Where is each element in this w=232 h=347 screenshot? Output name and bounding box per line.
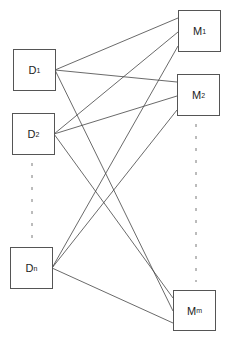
edge-d2-mm [54,134,173,298]
node-m1-sub: 1 [202,28,206,35]
node-d1-label: D [29,64,37,76]
node-m1-label: M [193,25,202,37]
node-d1-sub: 1 [37,67,41,74]
node-mm: Mm [173,290,216,331]
node-dn-label: D [26,262,34,274]
edge-dn-m2 [52,110,177,268]
edge-dn-mm [52,268,173,323]
edge-d2-m1 [54,32,178,134]
node-d1: D1 [13,49,56,91]
node-d2-sub: 2 [36,131,40,138]
node-mm-label: M [187,305,196,317]
node-m2-sub: 2 [201,92,205,99]
node-d2: D2 [12,113,55,155]
node-dn-sub: n [34,265,38,272]
edge-d1-m1 [55,18,178,70]
node-dn: Dn [10,247,53,289]
node-mm-sub: m [196,307,202,314]
edge-d2-m2 [54,96,177,134]
node-m2: M2 [177,74,220,116]
edge-d1-mm [55,70,173,311]
node-d2-label: D [28,128,36,140]
node-m2-label: M [192,89,201,101]
node-m1: M1 [178,10,221,52]
